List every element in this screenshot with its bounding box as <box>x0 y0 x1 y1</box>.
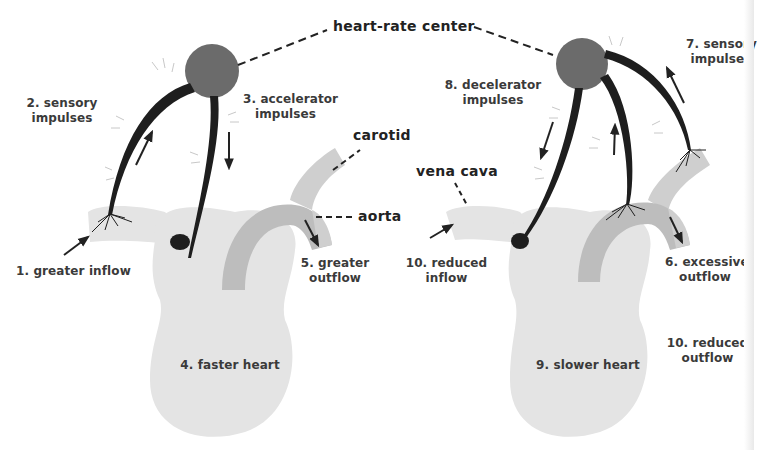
left-sa-node <box>170 234 190 250</box>
right-heart-body <box>509 207 651 437</box>
right-sensory-nerve-aorta <box>600 74 632 205</box>
sensory-impulses-label-left: 2. sensory impulses <box>22 96 102 126</box>
left-carotid <box>290 148 345 210</box>
heart-rate-center-title: heart-rate center <box>333 19 475 34</box>
vena-cava-leader <box>455 183 467 205</box>
right-carotid <box>648 148 710 212</box>
right-inflow-arrow-icon <box>430 225 452 238</box>
vena-cava-label: vena cava <box>416 164 498 179</box>
left-inflow-arrow-icon <box>64 237 88 255</box>
right-heart-rate-center-node <box>556 38 608 90</box>
right-sa-node <box>511 233 529 249</box>
faster-heart-label: 4. faster heart <box>180 358 280 373</box>
left-center-leader <box>238 30 327 65</box>
excessive-outflow-label: 6. excessive outflow <box>665 255 745 285</box>
greater-outflow-label: 5. greater outflow <box>300 256 370 286</box>
slower-heart-label: 9. slower heart <box>533 358 643 373</box>
left-sensory-nerve <box>108 83 195 215</box>
greater-inflow-label: 1. greater inflow <box>16 264 131 279</box>
right-sensory-arrow-icon-1 <box>614 125 615 155</box>
aorta-label: aorta <box>358 209 402 224</box>
right-decel-arrow-icon <box>541 122 553 158</box>
reduced-outflow-label: 10. reduced outflow <box>665 336 750 366</box>
page-edge-shadow <box>744 0 754 450</box>
reduced-inflow-label: 10. reduced inflow <box>404 256 489 286</box>
carotid-label: carotid <box>353 128 411 143</box>
right-center-leader <box>474 27 553 55</box>
decelerator-impulses-label: 8. decelerator impulses <box>443 78 543 108</box>
accelerator-impulses-label: 3. accelerator impulses <box>243 92 328 122</box>
